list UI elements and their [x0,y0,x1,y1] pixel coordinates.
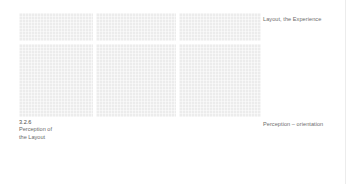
section-title-line1: Perception of [19,126,52,133]
section-number: 3.2.6 [19,119,52,126]
figure-panel [19,13,93,41]
figure-panel [19,44,93,117]
figure-panel [179,13,261,41]
figure-panel [96,13,176,41]
section-title-line2: the Layout [19,134,52,141]
section-heading: 3.2.6 Perception of the Layout [19,119,52,141]
page-edge-rule [345,0,346,184]
figure-caption-bottom: Perception – orientation [263,121,323,129]
figure-panel [96,44,176,117]
figure-panel [179,44,261,117]
figure-caption-top: Layout, the Experience [263,16,321,24]
